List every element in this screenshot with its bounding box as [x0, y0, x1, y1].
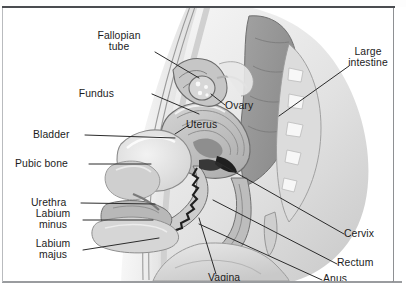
label-cervix: Cervix — [344, 228, 374, 239]
label-pubic-bone: Pubic bone — [15, 158, 68, 169]
illustration-canvas: Fallopian tube Fundus Bladder Pubic bone… — [3, 8, 393, 281]
label-labium-minus: Labium minus — [27, 208, 79, 231]
label-fallopian-tube: Fallopian tube — [89, 30, 149, 53]
label-rectum: Rectum — [337, 257, 373, 268]
ovary — [189, 76, 215, 100]
label-bladder: Bladder — [33, 129, 70, 140]
label-ovary: Ovary — [225, 100, 253, 111]
anatomy-figure: Fallopian tube Fundus Bladder Pubic bone… — [0, 0, 406, 295]
pubic-bone — [105, 161, 160, 200]
frame-border-bottom — [2, 281, 402, 283]
label-urethra: Urethra — [31, 197, 66, 208]
label-anus: Anus — [323, 273, 347, 281]
label-vagina: Vagina — [208, 272, 240, 281]
label-labium-majus: Labium majus — [27, 238, 79, 261]
label-fundus: Fundus — [66, 88, 114, 99]
label-uterus: Uterus — [186, 119, 217, 130]
label-large-intestine: Large intestine — [340, 46, 393, 69]
